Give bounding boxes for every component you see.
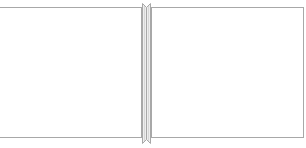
right-pane bbox=[151, 7, 304, 138]
left-pane bbox=[0, 7, 142, 138]
